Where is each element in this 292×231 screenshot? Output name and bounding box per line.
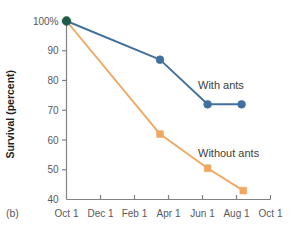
series-annotation-with-ants: With ants <box>198 79 244 91</box>
data-point-with-ants <box>204 100 212 108</box>
x-tick-label: Oct 1 <box>55 208 79 219</box>
data-point-without-ants <box>157 131 164 138</box>
series-annotation-without-ants: Without ants <box>198 147 260 159</box>
data-point-origin <box>62 17 71 26</box>
panel-label: (b) <box>6 207 19 219</box>
series-line-with-ants <box>67 21 242 104</box>
x-tick-label: Dec 1 <box>87 208 114 219</box>
y-tick-label: 40 <box>47 194 59 205</box>
data-point-with-ants <box>156 56 164 64</box>
y-tick-label: 80 <box>47 75 59 86</box>
chart-figure: 100%908070605040Oct 1Dec 1Feb 1Apr 1Jun … <box>0 0 292 231</box>
y-tick-label: 100% <box>33 16 59 27</box>
y-axis-title: Survival (percent) <box>4 70 16 159</box>
y-tick-label: 70 <box>47 105 59 116</box>
data-point-with-ants <box>238 100 246 108</box>
y-tick-label: 50 <box>47 164 59 175</box>
data-point-without-ants <box>204 165 211 172</box>
series-line-without-ants <box>67 21 244 191</box>
data-point-without-ants <box>240 187 247 194</box>
y-tick-label: 60 <box>47 135 59 146</box>
x-tick-label: Feb 1 <box>122 208 148 219</box>
x-tick-label: Apr 1 <box>157 208 181 219</box>
x-tick-label: Jun 1 <box>190 208 215 219</box>
x-tick-label: Aug 1 <box>223 208 250 219</box>
y-tick-label: 90 <box>47 45 59 56</box>
x-tick-label: Oct 1 <box>259 208 283 219</box>
survival-line-chart: 100%908070605040Oct 1Dec 1Feb 1Apr 1Jun … <box>0 0 292 231</box>
